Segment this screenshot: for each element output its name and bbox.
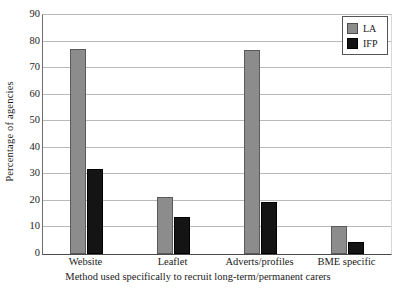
y-tick-label: 40: [14, 142, 40, 152]
y-tick-label: 30: [14, 168, 40, 178]
bar-ifp-1: [174, 217, 190, 254]
x-axis-title: Method used specifically to recruit long…: [0, 271, 396, 283]
x-tick-label: BME specific: [317, 256, 375, 268]
y-tick-label: 60: [14, 89, 40, 99]
y-tick-label: 10: [14, 221, 40, 231]
bar-la-0: [70, 49, 86, 254]
legend-label-la: LA: [363, 23, 376, 34]
x-axis-tick-labels: WebsiteLeafletAdverts/profilesBME specif…: [42, 256, 392, 270]
legend-entry-ifp: IFP: [347, 36, 383, 50]
y-axis-title-text: Percentage of agencies: [4, 81, 15, 182]
y-tick-label: 20: [14, 195, 40, 205]
bar-la-2: [244, 50, 260, 254]
x-tick-label: Website: [69, 256, 103, 268]
y-tick-label: 50: [14, 115, 40, 125]
chart-legend: LA IFP: [342, 16, 388, 55]
bar-group: [43, 15, 130, 254]
bar-ifp-0: [87, 169, 103, 254]
bar-ifp-3: [348, 242, 364, 254]
bar-group: [130, 15, 217, 254]
y-tick-label: 80: [14, 36, 40, 46]
legend-swatch-ifp-icon: [347, 38, 358, 49]
y-axis-tick-labels: 0102030405060708090: [14, 0, 40, 262]
x-tick-label: Leaflet: [158, 256, 188, 268]
y-tick-label: 0: [14, 248, 40, 258]
bar-la-1: [157, 197, 173, 254]
legend-swatch-la-icon: [347, 23, 358, 34]
y-tick-label: 90: [14, 9, 40, 19]
bar-group: [217, 15, 304, 254]
legend-entry-la: LA: [347, 21, 383, 35]
plot-area: [42, 14, 392, 255]
bar-chart: Percentage of agencies 01020304050607080…: [0, 0, 396, 292]
y-tick-label: 70: [14, 62, 40, 72]
bars-layer: [43, 15, 391, 254]
legend-label-ifp: IFP: [363, 38, 377, 49]
bar-ifp-2: [261, 202, 277, 254]
bar-la-3: [331, 226, 347, 254]
x-tick-label: Adverts/profiles: [225, 256, 293, 268]
